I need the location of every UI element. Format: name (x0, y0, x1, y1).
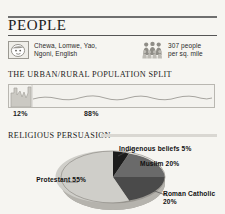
urban-rural-graphic (9, 85, 214, 107)
religion-title: RELIGIOUS PERSUASION (8, 131, 111, 140)
rural-percent-label: 88% (84, 110, 99, 117)
urban-rural-illustration (8, 84, 215, 108)
header-rule-bottom (8, 35, 217, 36)
label-roman-catholic: Roman Catholic 20% (163, 190, 223, 207)
page-title: PEOPLE (8, 17, 67, 34)
label-protestant: Protestant 55% (28, 176, 86, 184)
label-muslim: Muslim 20% (140, 160, 179, 168)
people-infographic-panel: PEOPLE Chewa, Lomwe, Yao, Ngoni, English (0, 0, 225, 214)
languages-value: Chewa, Lomwe, Yao, Ngoni, English (34, 41, 97, 59)
religion-title-rule (101, 134, 217, 137)
label-indigenous-beliefs: Indigenous beliefs 5% (119, 145, 191, 153)
urban-percent-label: 12% (13, 110, 28, 117)
urban-rural-title: THE URBAN/RURAL POPULATION SPLIT (8, 70, 172, 79)
face-language-icon (8, 41, 29, 59)
people-group-density-icon (142, 41, 163, 59)
fact-languages: Chewa, Lomwe, Yao, Ngoni, English (8, 41, 97, 59)
religion-pie-chart: Indigenous beliefs 5% Muslim 20% Roman C… (0, 140, 225, 214)
fact-population-density: 307 people per sq. mile (142, 41, 203, 59)
population-density-value: 307 people per sq. mile (168, 41, 203, 59)
